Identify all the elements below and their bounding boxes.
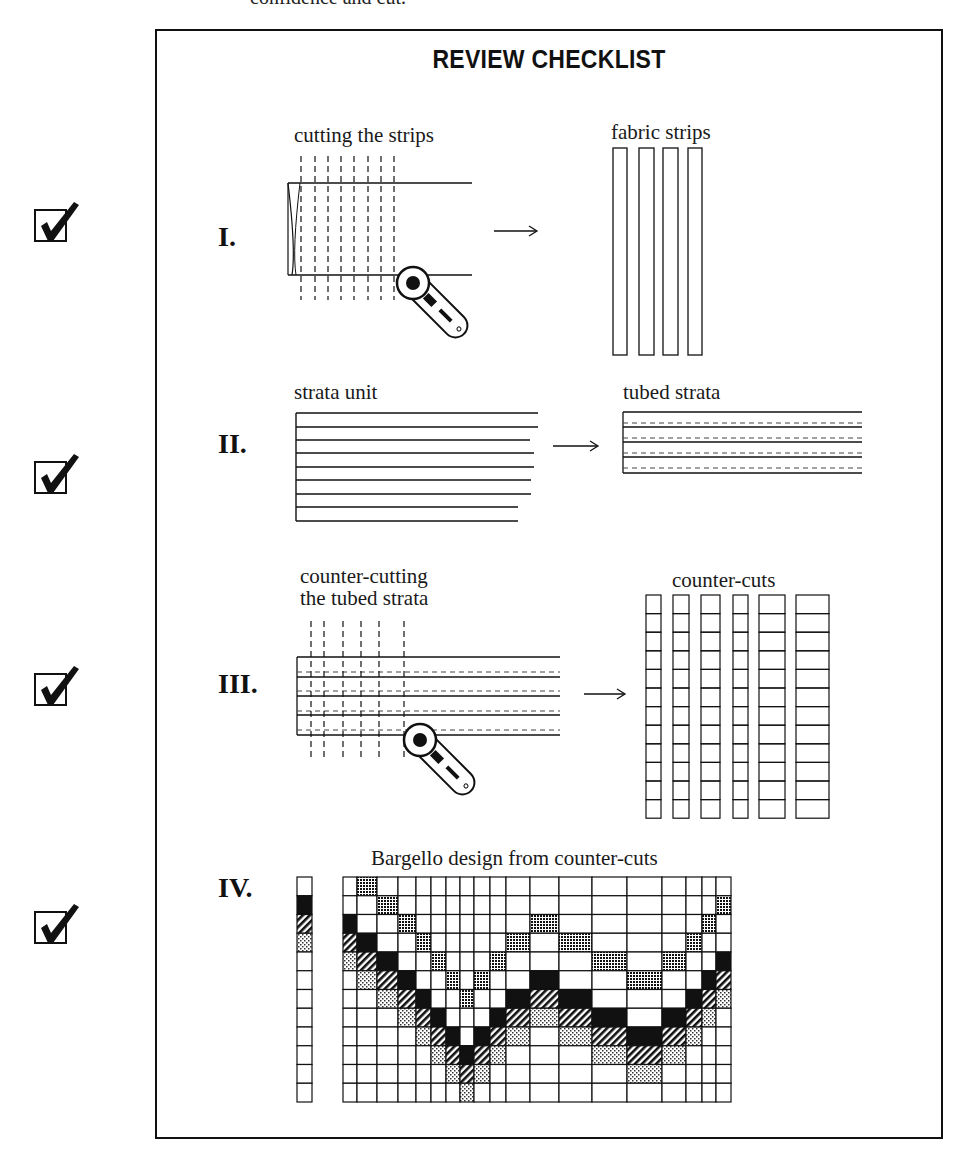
bargello-grid — [0, 0, 960, 1176]
